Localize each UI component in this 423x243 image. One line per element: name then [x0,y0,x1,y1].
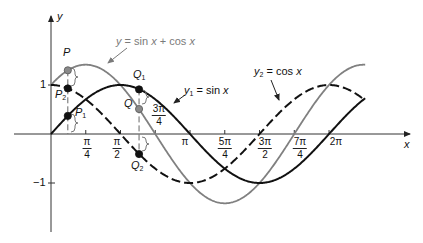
point-label-q: Q [124,97,133,109]
x-tick-label-pi: π [181,137,190,148]
x-tick-label-2pi: 2π [329,137,343,148]
y-tick-label-1: 1 [40,78,46,90]
arrow-sum-label [108,48,127,63]
point-label-p1: P1 [75,106,86,122]
x-tick-label-pi-over-4: π4 [83,137,92,160]
label-sin: y1 = sin x [184,84,229,100]
brace-axis-q2 [142,137,149,151]
plot-area [0,0,423,243]
x-tick-label-pi-over-2: π2 [113,137,122,160]
point-label-p: P [63,46,70,58]
x-axis-label: x [404,138,410,150]
x-ticks [86,130,329,134]
x-tick-label-7pi-over-4: 7π4 [293,137,307,160]
x-tick-label-3pi-over-4: 3π4 [152,104,166,127]
point-q1-dot [135,86,142,93]
point-p1-dot [64,112,71,119]
y-axis-label: y [57,10,63,22]
point-label-p2: P2 [55,88,66,104]
label-cos: y2 = cos x [254,65,302,81]
point-p-dot [64,67,71,74]
point-q-dot [135,105,142,112]
brace-p-p2 [71,68,78,86]
x-tick-label-5pi-over-4: 5π4 [218,137,232,160]
x-tick-label-3pi-over-2: 3π2 [258,137,272,160]
figure-sin-cos-sum: y x 1 −1 π4 π2 3π4 π 5π4 3π2 7π4 2π y = … [0,0,423,243]
point-label-q2: Q2 [131,159,143,175]
arrow-cos-label [271,80,279,100]
label-sin-plus-cos: y = sin x + cos x [116,35,195,47]
point-label-q1: Q1 [133,68,145,84]
point-q2-dot [135,150,142,157]
y-tick-label-neg1: −1 [33,176,46,188]
